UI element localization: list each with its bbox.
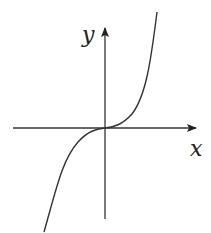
cubic-graph: y x: [0, 0, 211, 233]
x-axis-label: x: [190, 136, 203, 161]
y-axis-label: y: [81, 22, 95, 47]
cubic-curve: [44, 12, 157, 232]
